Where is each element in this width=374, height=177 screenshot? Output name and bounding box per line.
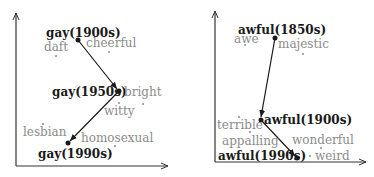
label-wonderful: wonderful [292,134,354,146]
label-lesbian: lesbian [23,126,67,138]
label-homosexual: homosexual [81,132,153,144]
label-awe: awe [234,33,259,45]
label-weird: weird [315,150,350,162]
label-gay-1990s: gay(1990s) [38,148,113,160]
label-daft: daft [44,41,68,53]
label-awful-1900s: awful(1900s) [264,114,352,126]
label-terrible: terrible [217,119,263,131]
label-gay-1950s: gay(1950s) [52,86,127,98]
label-awful-1990s: awful(1990s) [218,150,306,162]
label-appalling: appalling [222,135,279,147]
label-cheerful: cheerful [86,37,136,49]
label-majestic: majestic [278,38,329,50]
label-bright: bright [124,86,162,98]
label-witty: witty [104,105,135,117]
